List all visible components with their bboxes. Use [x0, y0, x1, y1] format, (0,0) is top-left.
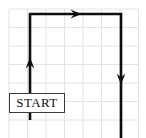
start-label-text: START: [16, 95, 57, 111]
directed-path: [0, 0, 146, 138]
diagram-canvas: START: [0, 0, 146, 138]
route-path: [30, 14, 121, 138]
start-label-box: START: [9, 93, 65, 113]
arrow-heads: [26, 10, 126, 85]
